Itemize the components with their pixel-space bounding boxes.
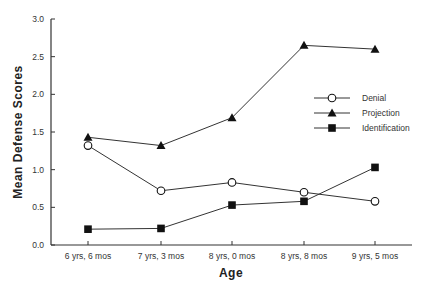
y-tick-label: 1.5 <box>32 127 44 137</box>
legend-item-projection: Projection <box>314 108 400 118</box>
x-tick-label: 9 yrs, 5 mos <box>352 251 398 261</box>
legend-label: Denial <box>362 93 386 103</box>
filled-triangle-marker-icon <box>84 133 93 141</box>
series-line <box>88 146 375 202</box>
y-tick-label: 0.0 <box>32 240 44 250</box>
open-circle-marker-icon <box>84 142 92 150</box>
legend-item-denial: Denial <box>314 93 386 103</box>
open-circle-marker-icon <box>328 94 336 102</box>
x-tick-label: 6 yrs, 6 mos <box>65 251 111 261</box>
y-tick-label: 1.0 <box>32 165 44 175</box>
filled-square-marker-icon <box>300 198 308 206</box>
open-circle-marker-icon <box>228 179 236 187</box>
y-tick-label: 2.5 <box>32 52 44 62</box>
filled-square-marker-icon <box>328 124 336 132</box>
x-axis-ticks: 6 yrs, 6 mos7 yrs, 3 mos8 yrs, 0 mos8 yr… <box>65 241 398 261</box>
y-tick-label: 0.5 <box>32 202 44 212</box>
series-identification <box>84 164 379 233</box>
open-circle-marker-icon <box>300 188 308 196</box>
y-tick-label: 2.0 <box>32 89 44 99</box>
filled-square-marker-icon <box>371 164 379 172</box>
line-chart: 0.00.51.01.52.02.53.0 6 yrs, 6 mos7 yrs,… <box>0 0 425 293</box>
legend-label: Projection <box>362 108 400 118</box>
y-tick-label: 3.0 <box>32 14 44 24</box>
axes <box>51 19 412 245</box>
y-axis-title: Mean Defense Scores <box>11 65 25 199</box>
legend-item-identification: Identification <box>314 123 410 133</box>
series-line <box>88 167 375 229</box>
series-lines <box>84 41 380 233</box>
filled-square-marker-icon <box>157 225 165 233</box>
legend-label: Identification <box>362 123 410 133</box>
x-tick-label: 7 yrs, 3 mos <box>138 251 184 261</box>
filled-triangle-marker-icon <box>300 41 309 49</box>
open-circle-marker-icon <box>157 187 165 195</box>
x-tick-label: 8 yrs, 8 mos <box>281 251 327 261</box>
filled-square-marker-icon <box>228 201 236 209</box>
open-circle-marker-icon <box>371 198 379 206</box>
x-axis-title: Age <box>219 266 243 280</box>
series-denial <box>84 142 379 205</box>
filled-square-marker-icon <box>84 225 92 233</box>
legend: DenialProjectionIdentification <box>314 93 410 133</box>
x-tick-label: 8 yrs, 0 mos <box>209 251 255 261</box>
